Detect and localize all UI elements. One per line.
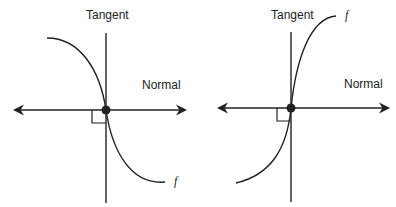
diagram-canvas: Tangent Normal f Tangent Normal f: [0, 0, 396, 207]
right-normal-label: Normal: [344, 77, 383, 91]
right-curve-f: [236, 16, 336, 183]
left-tangent-label: Tangent: [86, 8, 129, 22]
left-function-label: f: [174, 174, 179, 188]
right-function-label: f: [345, 8, 350, 22]
left-normal-label: Normal: [142, 78, 181, 92]
left-point-of-tangency: [102, 106, 111, 115]
right-point-of-tangency: [287, 104, 296, 113]
left-figure: Tangent Normal f: [15, 8, 185, 203]
right-figure: Tangent Normal f: [219, 8, 388, 202]
right-tangent-label: Tangent: [271, 8, 314, 22]
